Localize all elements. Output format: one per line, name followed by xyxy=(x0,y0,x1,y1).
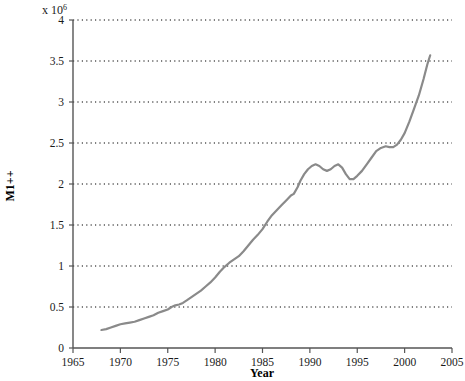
y-tick-label: 1.5 xyxy=(50,219,65,231)
gridlines-group xyxy=(73,20,452,307)
y-tick-label: 0 xyxy=(58,342,64,354)
x-tick-label: 1990 xyxy=(298,356,321,368)
y-tick-label: 2.5 xyxy=(50,137,65,149)
x-ticks-group: 196519701975198019851990199520002005 xyxy=(62,348,464,368)
y-tick-label: 2 xyxy=(58,178,64,190)
x-axis-title: Year xyxy=(250,366,275,380)
y-tick-label: 3.5 xyxy=(50,55,65,67)
data-series-line xyxy=(101,55,430,330)
y-tick-label: 4 xyxy=(58,14,64,26)
x-tick-label: 2000 xyxy=(393,356,416,368)
x-tick-label: 1980 xyxy=(204,356,227,368)
y-tick-label: 0.5 xyxy=(50,301,65,313)
y-ticks-group: 00.511.522.533.54 xyxy=(50,14,73,354)
line-chart-svg: x 106 00.511.522.533.54 1965197019751980… xyxy=(0,0,465,381)
y-axis-multiplier-exponent: 6 xyxy=(63,3,67,12)
x-tick-label: 1970 xyxy=(109,356,132,368)
y-tick-label: 1 xyxy=(58,260,64,272)
x-tick-label: 1975 xyxy=(156,356,179,368)
y-tick-label: 3 xyxy=(58,96,64,108)
x-tick-label: 1995 xyxy=(346,356,369,368)
chart-figure: x 106 00.511.522.533.54 1965197019751980… xyxy=(0,0,465,381)
y-axis-title: M1++ xyxy=(3,170,17,201)
x-tick-label: 2005 xyxy=(441,356,464,368)
x-tick-label: 1965 xyxy=(62,356,85,368)
